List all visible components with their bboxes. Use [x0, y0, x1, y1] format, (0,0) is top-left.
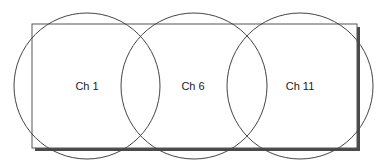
channel-11-label: Ch 11 — [286, 80, 315, 92]
channel-overlap-diagram: Ch 1 Ch 6 Ch 11 — [0, 0, 386, 168]
channel-6-label: Ch 6 — [181, 80, 204, 92]
channel-1-label: Ch 1 — [75, 80, 98, 92]
